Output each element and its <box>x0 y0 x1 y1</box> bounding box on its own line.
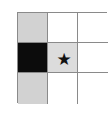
cell-r2-c3 <box>78 43 108 73</box>
cell-r2-c2: ★ <box>48 43 78 73</box>
cell-r2-c1 <box>18 43 48 73</box>
star-icon: ★ <box>56 51 71 68</box>
grid-3x3: ★ <box>17 12 107 103</box>
cell-r1-c3 <box>78 13 108 43</box>
cell-r1-c1 <box>18 13 48 43</box>
cell-r3-c1 <box>18 73 48 104</box>
cell-r3-c3 <box>78 73 108 104</box>
cell-r3-c2 <box>48 73 78 104</box>
cell-r1-c2 <box>48 13 78 43</box>
